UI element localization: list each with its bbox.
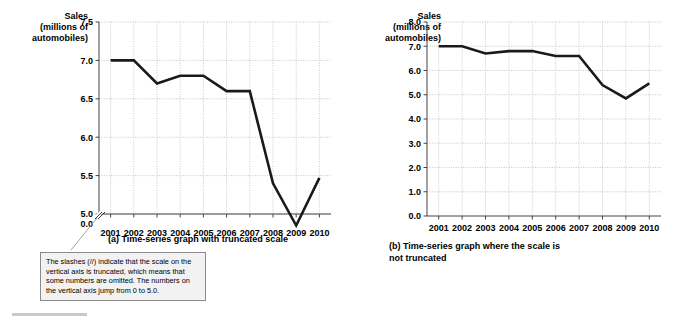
caption-b-line-1: (b) Time-series graph where the scale is	[389, 241, 629, 253]
y-tick-label: 5.5	[80, 171, 93, 181]
y-tick-label: 7.0	[408, 42, 421, 52]
x-tick-label: 2010	[309, 228, 329, 238]
y-tick-label: 2.0	[408, 163, 421, 173]
chart-b: 8.07.06.05.04.03.02.01.00.02001200220032…	[341, 0, 683, 250]
caption-b-line-2: not truncated	[389, 253, 629, 265]
x-tick-label: 2004	[499, 223, 519, 233]
y-tick-label: 3.0	[408, 139, 421, 149]
y-tick-label: 5.0	[408, 90, 421, 100]
y-tick-label: 4.0	[408, 114, 421, 124]
y-tick-label: 6.5	[80, 94, 93, 104]
y-tick-label: 7.0	[80, 56, 93, 66]
y-tick-label: 5.0	[80, 209, 93, 219]
data-series-line	[111, 60, 320, 225]
x-tick-label: 2010	[639, 223, 659, 233]
data-series-line	[439, 46, 650, 98]
caption-b: (b) Time-series graph where the scale is…	[389, 241, 629, 264]
x-tick-label: 2007	[569, 223, 589, 233]
y-tick-label: 8.0	[408, 17, 421, 27]
bottom-rule	[12, 313, 87, 316]
chart-a: 7.57.06.56.05.55.00.02001200220032004200…	[0, 0, 341, 250]
x-tick-label: 2001	[429, 223, 449, 233]
x-tick-label: 2009	[286, 228, 306, 238]
y-tick-label: 1.0	[408, 187, 421, 197]
x-tick-label: 2005	[522, 223, 542, 233]
callout-box-truncation-note: The slashes (//) indicate that the scale…	[40, 252, 206, 301]
panel-truncated-scale: Sales (millions of automobiles) 7.57.06.…	[0, 0, 341, 321]
y-tick-label: 0.0	[80, 219, 93, 229]
y-tick-label: 6.0	[408, 66, 421, 76]
panel-full-scale: Sales (millions of automobiles) 8.07.06.…	[341, 0, 683, 321]
x-tick-label: 2008	[592, 223, 612, 233]
x-tick-label: 2009	[616, 223, 636, 233]
y-tick-label: 0.0	[408, 211, 421, 221]
x-tick-label: 2003	[475, 223, 495, 233]
y-tick-label: 7.5	[80, 17, 93, 27]
caption-a: (a) Time-series graph with truncated sca…	[108, 234, 288, 246]
x-tick-label: 2006	[546, 223, 566, 233]
y-tick-label: 6.0	[80, 133, 93, 143]
x-tick-label: 2002	[452, 223, 472, 233]
